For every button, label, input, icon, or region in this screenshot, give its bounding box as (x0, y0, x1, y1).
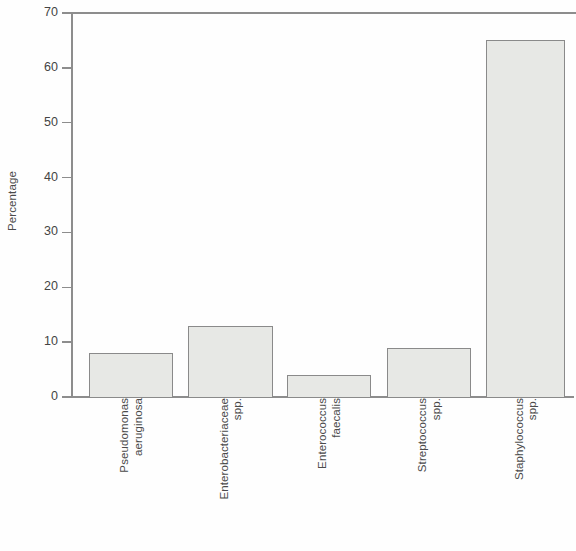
x-axis-category-label-line: Enterobacteriaceae (218, 398, 230, 500)
bar (387, 348, 471, 398)
x-axis-category-label: Pseudomonasaeruginosa (89, 398, 173, 548)
x-axis-category-label-line: Enterococcus (316, 398, 328, 469)
y-axis-tick-label: 70 (18, 6, 58, 19)
x-axis-category-label: Streptococcusspp. (387, 398, 471, 548)
y-axis-tick-label: 60 (18, 61, 58, 74)
x-axis-category-label-line: aeruginosa (132, 398, 144, 456)
y-axis-tick-label: 10 (18, 335, 58, 348)
y-axis-tick-label: 50 (18, 116, 58, 129)
x-axis-category-label-line: spp. (231, 398, 243, 420)
bar (287, 375, 371, 398)
x-axis-category-label: Staphylococcusspp. (486, 398, 565, 548)
plot-top-border (71, 12, 576, 14)
y-axis-tick (62, 177, 72, 179)
plot-area: 010203040506070 (0, 0, 576, 398)
x-axis-category-label-line: Staphylococcus (513, 398, 525, 480)
y-axis-tick-label: 20 (18, 280, 58, 293)
y-axis-tick (62, 341, 72, 343)
y-axis-tick-label: 40 (18, 171, 58, 184)
x-axis-category-label-line: spp. (430, 398, 442, 420)
y-axis-tick (62, 12, 72, 14)
bar-chart-figure: Percentage 010203040506070 Pseudomonasae… (0, 0, 576, 551)
y-axis-tick (62, 232, 72, 234)
x-axis-category-label-line: faecalis (330, 398, 342, 438)
bar (486, 40, 565, 398)
y-axis-tick-label: 30 (18, 225, 58, 238)
x-axis-category-label-line: Pseudomonas (118, 398, 130, 473)
x-axis-category-label: Enterococcusfaecalis (287, 398, 371, 548)
y-axis-tick (62, 122, 72, 124)
x-axis-category-labels: PseudomonasaeruginosaEnterobacteriaceaes… (0, 398, 576, 551)
y-axis-tick (62, 67, 72, 69)
x-axis-category-label-line: Streptococcus (416, 398, 428, 472)
x-axis-category-label: Enterobacteriaceaespp. (188, 398, 273, 548)
y-axis-tick (62, 287, 72, 289)
x-axis-category-label-line: spp. (526, 398, 538, 420)
bar (89, 353, 173, 398)
bar (188, 326, 273, 398)
y-axis-line (71, 13, 73, 398)
